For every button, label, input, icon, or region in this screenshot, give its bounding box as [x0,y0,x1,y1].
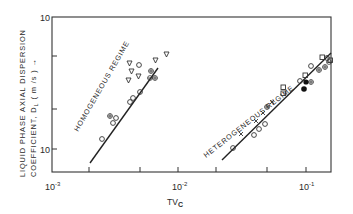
y-tick-label-top: 10 [40,13,50,23]
heterogeneous-regime-label: HETEROGENEOUS REGIME [202,83,296,159]
heterogeneous-fit-line [222,53,331,160]
y-axis-label: LIQUID PHASE AXIAL DISPERSION COEFFICIEN… [18,29,39,177]
svg-text:10-1: 10-1 [299,181,315,192]
x-axis-ticks [89,167,306,172]
svg-text:10-2: 10-2 [172,181,188,192]
y-axis-ticks [52,56,57,149]
svg-text:10-3: 10-3 [45,181,61,192]
svg-text:LIQUID PHASE AXIAL DISPERSION: LIQUID PHASE AXIAL DISPERSION [18,29,27,177]
y-tick-label-bottom: 10 [40,145,50,155]
x-tick-labels: 10-3 10-2 10-1 [45,181,315,192]
x-axis-label: TVC [167,197,183,208]
series-circle-cross [108,60,332,119]
chart: 10-3 10-2 10-1 TVC 10 10 LIQUID PHASE AX… [0,0,353,214]
svg-text:COEFFICIENT, DL ( m /s ) →: COEFFICIENT, DL ( m /s ) → [29,58,39,177]
